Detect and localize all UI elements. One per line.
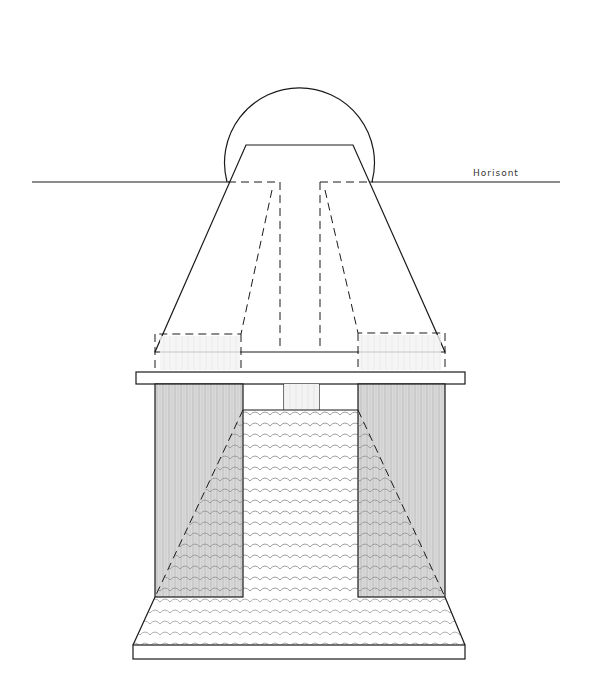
drawing-canvas (0, 0, 598, 695)
roof (155, 145, 445, 372)
horizon-label: Horisont (473, 168, 519, 178)
back-wall (284, 384, 319, 410)
roof-slab (136, 372, 465, 384)
base-slab (133, 645, 465, 659)
left-pillar (155, 384, 243, 597)
right-pillar (358, 384, 445, 597)
